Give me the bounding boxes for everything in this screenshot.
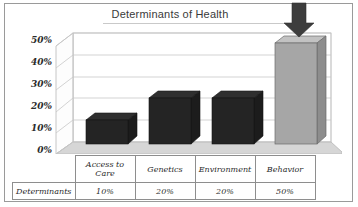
title-underline (103, 23, 289, 24)
y-tick-30: 30% (18, 80, 52, 89)
bar-chart-plot (12, 32, 342, 154)
data-table: Access to Care Genetics Environment Beha… (12, 155, 316, 200)
table-header-environment: Environment (195, 156, 255, 183)
bar-genetics (149, 91, 200, 144)
table-corner-cell (13, 156, 76, 183)
table-cell-environment: 20% (195, 183, 255, 200)
table-row: Determinants 10% 20% 20% 50% (13, 183, 316, 200)
down-arrow-icon (283, 2, 315, 38)
y-axis-tick-labels: 50% 40% 30% 20% 10% 0% (12, 36, 52, 156)
y-tick-10: 10% (18, 124, 52, 133)
table-row-label: Determinants (13, 183, 76, 200)
y-tick-50: 50% (18, 36, 52, 45)
figure-root: Determinants of Health (0, 0, 358, 207)
header-line-2: Care (95, 169, 114, 178)
chart-title: Determinants of Health (95, 8, 245, 20)
table-cell-access-to-care: 10% (75, 183, 135, 200)
header-line-1: Access to (86, 160, 124, 169)
bar-behavior (275, 36, 326, 144)
table-header-genetics: Genetics (135, 156, 195, 183)
y-tick-20: 20% (18, 102, 52, 111)
y-tick-40: 40% (18, 58, 52, 67)
table-header-access-to-care: Access to Care (75, 156, 135, 183)
bar-access-to-care (86, 113, 137, 144)
table-header-behavior: Behavior (255, 156, 315, 183)
table-cell-behavior: 50% (255, 183, 315, 200)
y-tick-0: 0% (18, 146, 52, 155)
table-cell-genetics: 20% (135, 183, 195, 200)
table-header-row: Access to Care Genetics Environment Beha… (13, 156, 316, 183)
bar-environment (212, 91, 263, 144)
